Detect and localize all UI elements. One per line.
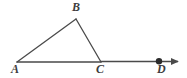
vertex-label-d: D (157, 63, 166, 75)
vertex-label-b: B (72, 1, 80, 13)
segment-AB (17, 19, 76, 62)
vertex-label-a: A (11, 63, 19, 75)
geometry-figure: A B C D (0, 0, 187, 78)
segment-BC (76, 19, 101, 62)
vertex-label-c: C (96, 63, 104, 75)
